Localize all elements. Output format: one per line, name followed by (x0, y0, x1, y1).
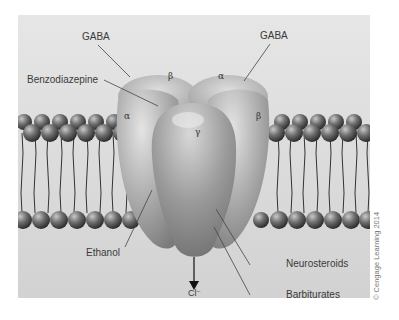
gaba-label-right: GABA (260, 30, 288, 41)
subunit-alpha-left: α (124, 111, 130, 121)
subunit-beta-right: β (256, 111, 261, 121)
gaba-receptor-diagram: GABA GABA Benzodiazepine Ethanol Neurost… (18, 15, 370, 298)
subunit-gamma-center: γ (195, 127, 200, 137)
neurosteroids-label: Neurosteroids (286, 258, 348, 269)
chloride-label: Cl⁻ (188, 288, 202, 298)
copyright-notice: © Cengage Learning 2014 (372, 212, 381, 300)
subunit-alpha-top-right: α (218, 71, 224, 81)
gaba-label-left: GABA (82, 31, 110, 42)
benzodiazepine-label: Benzodiazepine (27, 74, 98, 85)
ethanol-label: Ethanol (86, 247, 120, 258)
barbiturates-label: Barbiturates (286, 289, 340, 300)
diagram-canvas (18, 15, 370, 298)
subunit-beta-top-left: β (168, 71, 173, 81)
